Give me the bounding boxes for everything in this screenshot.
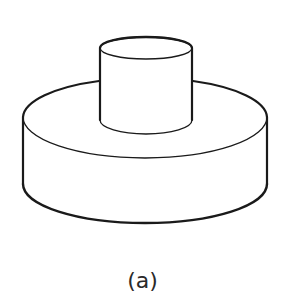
stepped-cylinder-drawing	[0, 0, 285, 306]
small-cylinder	[100, 37, 192, 134]
large-cylinder	[23, 81, 267, 223]
figure-caption: (a)	[0, 268, 285, 293]
